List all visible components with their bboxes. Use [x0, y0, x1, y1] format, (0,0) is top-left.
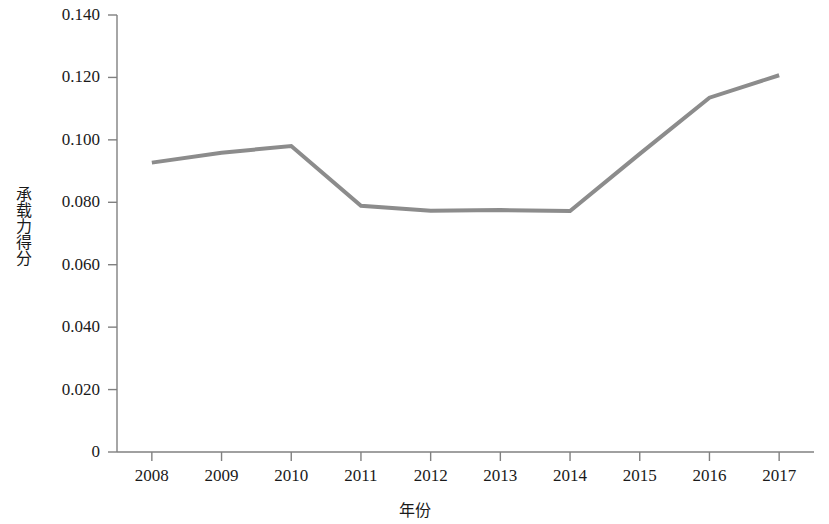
x-axis-tick-label: 2014 [534, 466, 606, 486]
x-axis-tick-label: 2012 [395, 466, 467, 486]
x-axis-tick-label: 2016 [673, 466, 745, 486]
chart-page: 承载力得分 年份 00.0200.0400.0600.0800.1000.120… [0, 0, 829, 524]
y-axis-tick-label: 0.120 [26, 67, 100, 87]
x-axis-tick-label: 2017 [743, 466, 815, 486]
line-chart-svg [0, 0, 829, 524]
y-axis-tick-label: 0.060 [26, 255, 100, 275]
y-axis-tick-label: 0.100 [26, 130, 100, 150]
x-axis-tick-label: 2013 [464, 466, 536, 486]
data-series-line [152, 75, 779, 211]
y-axis-tick-label: 0 [26, 442, 100, 462]
x-axis-tick-label: 2009 [186, 466, 258, 486]
x-axis-tick-label: 2010 [255, 466, 327, 486]
y-axis-tick-label: 0.140 [26, 5, 100, 25]
x-axis-tick-label: 2008 [116, 466, 188, 486]
x-axis-tick-label: 2015 [604, 466, 676, 486]
y-axis-tick-label: 0.080 [26, 192, 100, 212]
y-axis-tick-label: 0.040 [26, 317, 100, 337]
x-axis-tick-label: 2011 [325, 466, 397, 486]
plot-area: 00.0200.0400.0600.0800.1000.1200.1402008… [0, 0, 829, 524]
y-axis-tick-label: 0.020 [26, 380, 100, 400]
